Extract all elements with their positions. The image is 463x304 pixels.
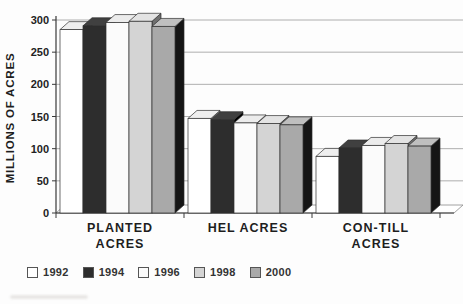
legend-label-1996: 1996 xyxy=(154,266,180,278)
y-tick-label-100: 100 xyxy=(31,143,49,155)
bar-2000-hel-acres xyxy=(280,117,312,213)
legend-swatch-1992 xyxy=(27,267,38,278)
scan-artifact xyxy=(10,295,88,299)
category-label-con-till-acres-line1: CON-TILL xyxy=(343,221,409,235)
y-tick-label-300: 300 xyxy=(31,14,49,26)
bar-1996-con-till-acres-front xyxy=(362,145,385,213)
bar-chart-figure: MILLIONS OF ACRES 050100150200250300PLAN… xyxy=(0,0,463,304)
category-label-hel-acres-line1: HEL ACRES xyxy=(208,221,289,235)
legend-swatch-1998 xyxy=(194,267,205,278)
bar-1992-hel-acres-front xyxy=(188,118,211,213)
bar-1992-con-till-acres-front xyxy=(316,156,339,213)
bar-1996-hel-acres-front xyxy=(234,123,257,213)
legend-item-2000: 2000 xyxy=(250,266,292,278)
bar-group-planted-acres xyxy=(60,13,184,213)
bar-1994-con-till-acres-front xyxy=(339,148,362,213)
bar-2000-planted-acres-side xyxy=(175,18,184,213)
legend-label-2000: 2000 xyxy=(266,266,292,278)
y-tick-label-250: 250 xyxy=(31,46,49,58)
bar-2000-planted-acres xyxy=(152,18,184,213)
bar-2000-planted-acres-front xyxy=(152,26,175,213)
legend-swatch-2000 xyxy=(250,267,261,278)
bar-2000-con-till-acres-side xyxy=(431,138,440,213)
legend-swatch-1994 xyxy=(83,267,94,278)
y-axis-title: MILLIONS OF ACRES xyxy=(4,53,16,184)
y-tick-label-150: 150 xyxy=(31,111,49,123)
bar-2000-hel-acres-front xyxy=(280,125,303,213)
category-label-con-till-acres-line2: ACRES xyxy=(352,237,401,251)
bar-2000-con-till-acres xyxy=(408,138,440,213)
bar-1998-con-till-acres-front xyxy=(385,144,408,213)
bar-1996-planted-acres-front xyxy=(106,23,129,213)
bar-group-hel-acres xyxy=(188,110,312,213)
legend-item-1996: 1996 xyxy=(138,266,180,278)
bar-1998-hel-acres-front xyxy=(257,124,280,213)
y-tick-label-0: 0 xyxy=(43,207,49,219)
legend-label-1992: 1992 xyxy=(43,266,69,278)
legend-swatch-1996 xyxy=(138,267,149,278)
legend-item-1998: 1998 xyxy=(194,266,236,278)
category-label-planted-acres-line2: ACRES xyxy=(96,237,145,251)
bar-1994-planted-acres-front xyxy=(83,26,106,213)
y-tick-label-50: 50 xyxy=(37,175,49,187)
bar-2000-hel-acres-side xyxy=(303,117,312,213)
bar-group-con-till-acres xyxy=(316,136,440,213)
bar-2000-con-till-acres-front xyxy=(408,146,431,213)
bar-1994-hel-acres-front xyxy=(211,120,234,213)
bar-1992-planted-acres-front xyxy=(60,30,83,213)
legend-item-1992: 1992 xyxy=(27,266,69,278)
y-tick-label-200: 200 xyxy=(31,78,49,90)
bar-1998-planted-acres-front xyxy=(129,21,152,213)
category-label-planted-acres-line1: PLANTED xyxy=(87,221,153,235)
legend-label-1994: 1994 xyxy=(99,266,125,278)
legend-label-1998: 1998 xyxy=(210,266,236,278)
legend-item-1994: 1994 xyxy=(83,266,125,278)
bar-chart-canvas: MILLIONS OF ACRES 050100150200250300PLAN… xyxy=(0,0,463,304)
legend: 19921994199619982000 xyxy=(27,266,291,278)
